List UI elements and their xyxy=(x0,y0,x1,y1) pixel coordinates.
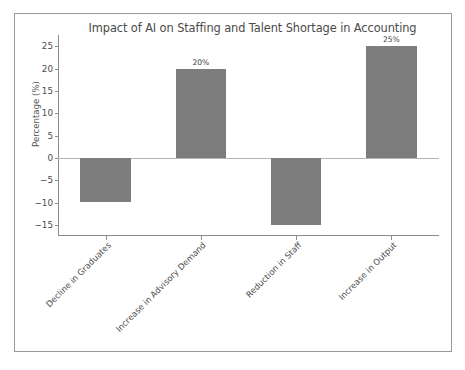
y-tick-mark xyxy=(55,136,58,137)
x-tick-label: Decline in Graduates xyxy=(43,240,112,309)
bar xyxy=(80,158,130,203)
y-tick-label: −10 xyxy=(34,198,53,208)
y-tick-label: 5 xyxy=(47,131,53,141)
y-tick-mark xyxy=(55,46,58,47)
x-tick-label: Increase in Advisory Demand xyxy=(114,240,208,334)
y-tick-mark xyxy=(55,203,58,204)
y-axis-title: Percentage (%) xyxy=(31,54,41,174)
y-tick-label: −5 xyxy=(40,175,53,185)
y-tick-mark xyxy=(55,113,58,114)
y-tick-label: 10 xyxy=(42,108,53,118)
plot-area: 2520151050−5−10−15 20%25% xyxy=(58,35,439,236)
bar xyxy=(271,158,321,225)
y-tick-label: −15 xyxy=(34,220,53,230)
y-tick-label: 15 xyxy=(42,86,53,96)
x-tick-label: Increase in Output xyxy=(337,240,399,302)
y-tick-mark xyxy=(55,69,58,70)
x-tick-label: Reduction in Staff xyxy=(244,240,304,300)
y-tick-mark xyxy=(55,91,58,92)
y-tick-mark xyxy=(55,225,58,226)
y-tick-label: 0 xyxy=(47,153,53,163)
y-tick-label: 25 xyxy=(42,41,53,51)
chart-title: Impact of AI on Staffing and Talent Shor… xyxy=(60,21,445,35)
bar xyxy=(176,69,226,158)
figure-frame: Impact of AI on Staffing and Talent Shor… xyxy=(14,13,452,352)
y-tick-label: 20 xyxy=(42,64,53,74)
y-tick-mark xyxy=(55,180,58,181)
bar-value-label: 20% xyxy=(192,58,209,67)
bar xyxy=(366,46,416,158)
bar-value-label: 25% xyxy=(383,35,400,44)
